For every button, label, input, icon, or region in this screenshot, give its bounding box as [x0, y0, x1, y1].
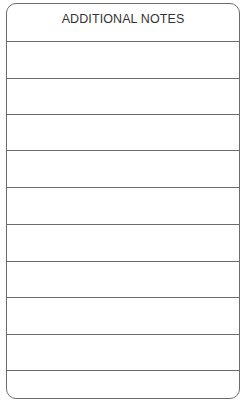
note-line: [7, 114, 239, 115]
note-line: [7, 261, 239, 262]
note-line: [7, 370, 239, 371]
note-line: [7, 150, 239, 151]
header-divider: [7, 41, 239, 42]
note-line: [7, 224, 239, 225]
notes-card: ADDITIONAL NOTES: [6, 3, 240, 399]
note-line: [7, 78, 239, 79]
note-line: [7, 297, 239, 298]
note-line: [7, 187, 239, 188]
notes-title: ADDITIONAL NOTES: [7, 12, 239, 26]
note-line: [7, 334, 239, 335]
